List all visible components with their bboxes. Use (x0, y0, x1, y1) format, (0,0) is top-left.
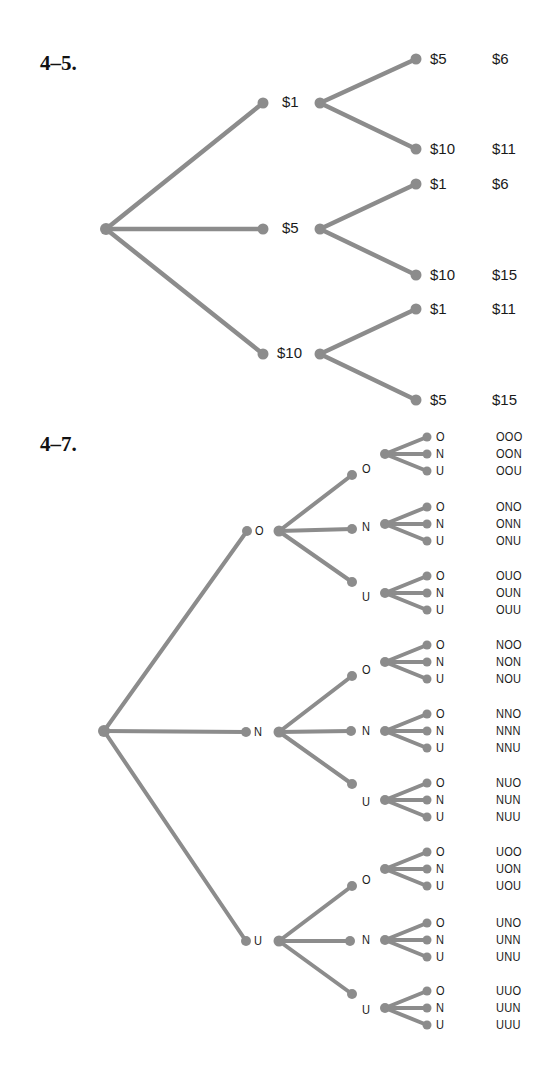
node-dot (242, 526, 252, 536)
node-dot (411, 304, 422, 315)
branch-line (279, 529, 352, 531)
outcome-label: NUU (496, 810, 521, 823)
outcome-label: UUN (496, 1001, 521, 1014)
branch-line (385, 645, 427, 662)
node-dot (347, 524, 357, 534)
node-dot (345, 936, 355, 946)
node-dot (423, 467, 432, 476)
leaf-label: N (436, 793, 444, 806)
node-label-level1: $1 (282, 94, 299, 109)
branch-line (320, 309, 416, 354)
node-label-level2: O (362, 663, 371, 676)
outcome-label: UNN (496, 933, 521, 946)
node-label-level1: U (254, 934, 262, 947)
outcome-label: UNU (496, 950, 521, 963)
branch-line (104, 731, 246, 732)
branch-line (320, 354, 416, 400)
node-label-level2: N (362, 520, 370, 533)
node-dot (241, 727, 251, 737)
node-dot (423, 987, 432, 996)
node-dot (423, 744, 432, 753)
branch-line (279, 886, 352, 941)
node-dot (423, 710, 432, 719)
total-value: $15 (492, 392, 517, 407)
branch-line (106, 229, 263, 354)
node-label-level2: U (362, 1003, 370, 1016)
node-dot (423, 953, 432, 962)
node-dot (411, 270, 422, 281)
branch-line (106, 103, 263, 229)
branch-line (385, 524, 427, 541)
leaf-label: O (436, 430, 445, 443)
leaf-label: U (436, 603, 444, 616)
node-label-level2: O (362, 873, 371, 886)
node-dot (423, 589, 432, 598)
leaf-label: O (436, 707, 445, 720)
branch-line (104, 731, 246, 941)
branch-line (385, 576, 427, 593)
branch-line (385, 1008, 427, 1025)
leaf-label: $1 (430, 301, 447, 316)
total-value: $6 (492, 176, 509, 191)
outcome-label: UON (496, 862, 521, 875)
branch-line (385, 454, 427, 471)
node-dot (423, 882, 432, 891)
outcome-label: NUO (496, 776, 521, 789)
leaf-label: U (436, 950, 444, 963)
leaf-label: N (436, 586, 444, 599)
node-dot (411, 54, 422, 65)
leaf-label: U (436, 672, 444, 685)
node-dot (423, 1004, 432, 1013)
leaf-label: N (436, 517, 444, 530)
outcome-label: OOU (496, 464, 522, 477)
leaf-label: O (436, 500, 445, 513)
total-value: $11 (492, 141, 516, 156)
outcome-label: NOO (496, 638, 522, 651)
outcome-label: OUN (496, 586, 521, 599)
leaf-label: N (436, 862, 444, 875)
branch-line (385, 991, 427, 1008)
branch-line (385, 731, 427, 748)
branch-line (385, 593, 427, 610)
node-dot (258, 349, 269, 360)
node-dot (423, 537, 432, 546)
node-dot (347, 577, 357, 587)
branch-line (385, 923, 427, 940)
leaf-label: $1 (430, 176, 447, 191)
node-dot (347, 989, 357, 999)
outcome-label: NOU (496, 672, 521, 685)
outcome-label: ONU (496, 534, 521, 547)
branch-line (385, 437, 427, 454)
outcome-label: NNN (496, 724, 521, 737)
node-dot (423, 919, 432, 928)
node-dot (347, 779, 357, 789)
leaf-label: O (436, 984, 445, 997)
node-dot (423, 936, 432, 945)
branch-line (385, 852, 427, 869)
node-dot (258, 224, 269, 235)
leaf-label: O (436, 845, 445, 858)
node-label-level1: $5 (282, 220, 299, 235)
branch-line (320, 59, 416, 103)
leaf-label: U (436, 1018, 444, 1031)
node-dot (423, 503, 432, 512)
node-dot (423, 813, 432, 822)
node-dot (423, 727, 432, 736)
branch-line (279, 731, 351, 732)
outcome-label: NON (496, 655, 521, 668)
node-dot (241, 936, 251, 946)
branch-line (279, 732, 352, 784)
outcome-label: NNO (496, 707, 521, 720)
branch-line (385, 783, 427, 800)
node-label-level2: N (362, 724, 370, 737)
node-dot (423, 796, 432, 805)
branch-line (385, 800, 427, 817)
node-dot (423, 779, 432, 788)
branch-line (385, 869, 427, 886)
node-dot (346, 726, 356, 736)
outcome-label: OON (496, 447, 522, 460)
outcome-label: NUN (496, 793, 521, 806)
leaf-label: $5 (430, 51, 447, 66)
outcome-label: OUU (496, 603, 521, 616)
branch-line (279, 941, 352, 994)
